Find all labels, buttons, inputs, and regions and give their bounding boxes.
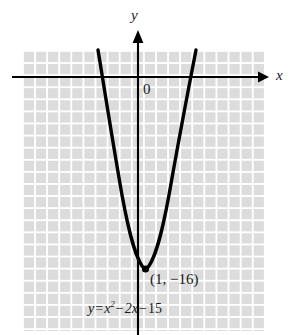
origin-label: 0 [143,82,151,97]
y-axis-label: y [131,8,138,23]
equation-term3: 15 [148,301,162,316]
equation-equals: = [94,301,104,316]
equation-label: y=x2−2x−15 [88,302,162,316]
x-axis-label: x [276,68,283,83]
equation-term2: 2x [125,301,138,316]
y-axis [133,30,144,335]
x-axis [12,72,269,83]
vertex-coordinate-label: (1, −16) [150,272,198,287]
graph-figure: y x 0 (1, −16) y=x2−2x−15 [0,0,291,335]
equation-operator-2: − [138,301,148,316]
plot-canvas [0,0,291,335]
vertex-point-marker [142,265,149,272]
equation-operator-1: − [115,301,125,316]
